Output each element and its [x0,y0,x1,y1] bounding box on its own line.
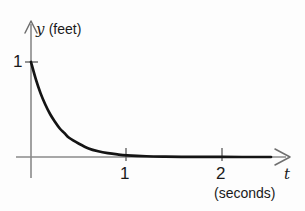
y-axis-variable: y [36,20,44,38]
decay-curve [31,62,271,157]
x-axis-label: t [284,167,290,182]
y-tick-label-1: 1 [13,53,22,70]
x-tick-label-1: 1 [120,165,129,182]
x-axis-unit: (seconds) [214,186,275,200]
y-axis-label: y (feet) [36,21,81,37]
x-tick-label-2: 2 [216,165,225,182]
exponential-decay-figure: y (feet) t (seconds) 1 1 2 [0,0,305,211]
y-axis-unit: (feet) [49,21,82,37]
